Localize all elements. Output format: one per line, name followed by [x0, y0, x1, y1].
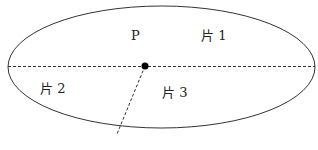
point-p-marker [142, 63, 149, 70]
ellipse-diagram [0, 0, 318, 150]
point-p-label: P [131, 29, 140, 42]
piece-1-label: 片 1 [201, 29, 226, 42]
radial-dashed-line [117, 66, 145, 134]
piece-3-label: 片 3 [162, 86, 187, 99]
piece-2-label: 片 2 [40, 82, 65, 95]
